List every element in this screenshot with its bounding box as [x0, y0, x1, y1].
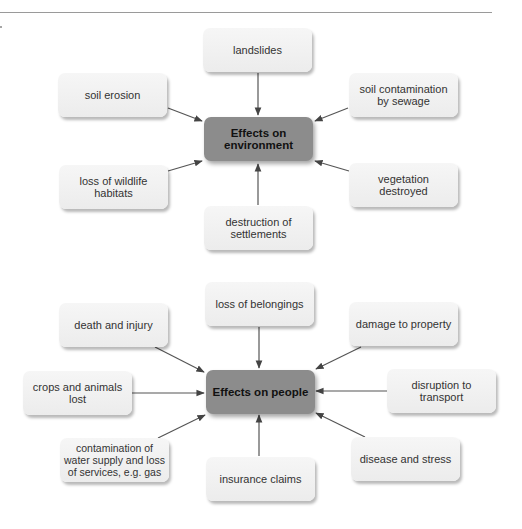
node-disruption-transport: disruption to transport	[387, 369, 496, 413]
node-label: soil contamination by sewage	[353, 83, 454, 107]
node-label: insurance claims	[220, 473, 302, 485]
node-label: soil erosion	[85, 89, 141, 101]
node-damage-property: damage to property	[349, 302, 458, 346]
node-label: death and injury	[74, 319, 152, 331]
center-label: Effects on people	[213, 386, 309, 398]
node-label: damage to property	[356, 318, 451, 330]
node-soil-contamination: soil contamination by sewage	[349, 73, 458, 117]
node-vegetation: vegetation destroyed	[349, 163, 458, 207]
node-label: disruption to transport	[391, 379, 492, 403]
arrow-death-injury	[155, 347, 204, 372]
node-label: vegetation destroyed	[353, 173, 454, 197]
node-crops-animals: crops and animals lost	[23, 371, 132, 415]
node-soil-erosion: soil erosion	[58, 73, 167, 117]
arrow-soil-erosion	[168, 108, 202, 121]
node-label: loss of belongings	[215, 298, 303, 310]
node-contamination-water: contamination of water supply and loss o…	[60, 438, 169, 482]
node-landslides: landslides	[203, 28, 312, 72]
center-node-environment: Effects on environment	[204, 117, 313, 161]
node-insurance: insurance claims	[206, 457, 315, 501]
node-loss-wildlife: loss of wildlife habitats	[59, 165, 168, 209]
node-death-injury: death and injury	[59, 303, 168, 347]
arrow-loss-wildlife	[168, 161, 202, 171]
node-label: destruction of settlements	[208, 216, 309, 240]
node-label: contamination of water supply and loss o…	[64, 442, 165, 478]
arrow-soil-contamination	[315, 108, 348, 121]
node-destruction-settlements: destruction of settlements	[204, 206, 313, 250]
node-label: crops and animals lost	[27, 381, 128, 405]
arrow-contamination-water	[158, 415, 205, 438]
arrow-damage-property	[316, 347, 361, 369]
arrow-disease-stress	[316, 413, 365, 437]
node-disease-stress: disease and stress	[351, 437, 460, 481]
arrow-vegetation	[315, 161, 349, 171]
center-label: Effects on environment	[208, 127, 309, 151]
node-label: landslides	[233, 44, 282, 56]
node-label: loss of wildlife habitats	[63, 175, 164, 199]
node-label: disease and stress	[360, 453, 452, 465]
center-node-people: Effects on people	[206, 370, 315, 414]
node-loss-belongings: loss of belongings	[205, 282, 314, 326]
